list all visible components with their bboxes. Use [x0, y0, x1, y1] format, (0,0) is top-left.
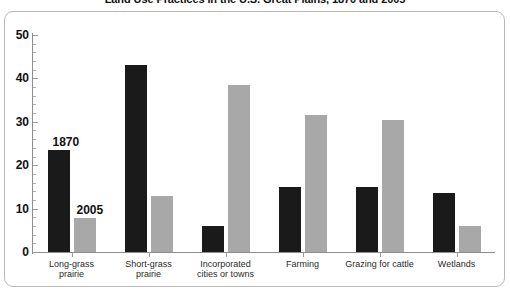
bar-1870[interactable] — [125, 65, 147, 252]
x-axis-category-label: Farming — [263, 259, 343, 269]
y-axis-tick-label: 0 — [22, 245, 29, 259]
x-axis-category-label: Short-grass prairie — [109, 259, 189, 279]
x-axis-major-tick — [72, 253, 73, 257]
x-axis-category-label: Long-grass prairie — [32, 259, 112, 279]
plot-area — [33, 35, 495, 252]
x-axis-category-label: Wetlands — [417, 259, 497, 269]
bar-2005[interactable] — [305, 115, 327, 252]
y-axis-tick-label: 40 — [16, 71, 29, 85]
y-axis-major-tick — [33, 252, 38, 253]
bar-1870[interactable] — [279, 187, 301, 252]
bar-group — [125, 35, 173, 252]
bar-group — [433, 35, 481, 252]
x-axis-major-tick — [457, 253, 458, 257]
bar-2005[interactable] — [74, 218, 96, 252]
bar-group — [279, 35, 327, 252]
y-axis-tick-label: 30 — [16, 115, 29, 129]
bar-1870[interactable] — [433, 193, 455, 252]
y-axis-tick-label: 50 — [16, 28, 29, 42]
x-axis-line — [32, 252, 495, 253]
chart-title: Land Use Practices in the U.S. Great Pla… — [0, 0, 510, 5]
y-axis-tick-label: 20 — [16, 158, 29, 172]
bar-1870[interactable] — [48, 150, 70, 252]
bar-2005[interactable] — [382, 120, 404, 252]
x-axis-major-tick — [380, 253, 381, 257]
bar-2005[interactable] — [459, 226, 481, 252]
bar-2005[interactable] — [228, 85, 250, 252]
bar-group — [202, 35, 250, 252]
x-axis-major-tick — [226, 253, 227, 257]
y-axis-tick-labels: 01020304050 — [0, 0, 29, 290]
x-axis-category-label: Grazing for cattle — [340, 259, 420, 269]
x-axis-category-label: Incorporated cities or towns — [186, 259, 266, 279]
x-axis-major-tick — [303, 253, 304, 257]
bar-1870[interactable] — [202, 226, 224, 252]
x-axis-major-tick — [149, 253, 150, 257]
y-axis-tick-label: 10 — [16, 202, 29, 216]
bar-2005[interactable] — [151, 196, 173, 252]
series-annotation-2005: 2005 — [77, 203, 104, 217]
bar-1870[interactable] — [356, 187, 378, 252]
bar-group — [356, 35, 404, 252]
series-annotation-1870: 1870 — [53, 135, 80, 149]
